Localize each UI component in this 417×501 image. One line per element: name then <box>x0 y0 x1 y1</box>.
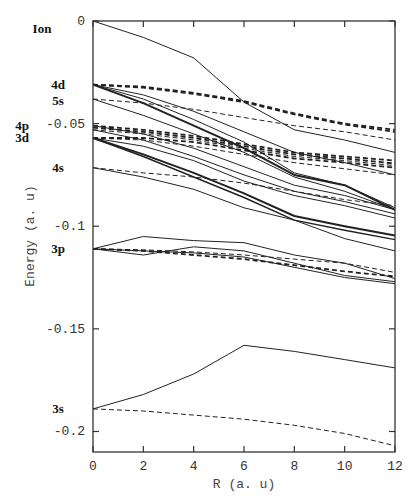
y-tick-label: -0.2 <box>54 424 85 439</box>
y-tick-label: -0.1 <box>54 219 85 234</box>
state-label-4d: 4d <box>51 77 66 92</box>
state-label-Ion: Ion <box>33 21 53 36</box>
state-label-3d: 3d <box>15 130 30 145</box>
series-line <box>93 249 395 273</box>
series-line <box>93 85 395 130</box>
series-line <box>93 168 395 251</box>
state-label-3s: 3s <box>52 401 64 416</box>
state-label-3p: 3p <box>51 241 65 256</box>
x-tick-label: 6 <box>240 459 248 474</box>
x-tick-label: 8 <box>290 459 298 474</box>
series-line <box>93 85 395 210</box>
x-tick-label: 0 <box>89 459 97 474</box>
x-tick-label: 10 <box>337 459 353 474</box>
series-line <box>93 130 395 166</box>
y-tick-label: 0 <box>77 14 85 29</box>
x-tick-label: 2 <box>139 459 147 474</box>
x-axis-title: R (a. u) <box>213 477 275 492</box>
y-tick-label: -0.15 <box>46 322 85 337</box>
series-line <box>93 138 395 218</box>
series-line <box>93 99 395 140</box>
series-line <box>93 249 395 277</box>
state-label-4s: 4s <box>52 160 64 175</box>
series-line <box>93 409 395 446</box>
series-line <box>93 85 395 132</box>
y-axis-title: Energy (a. u) <box>23 185 38 286</box>
plot-frame <box>93 21 395 452</box>
x-tick-label: 4 <box>190 459 198 474</box>
x-axis-ticks: 024681012 <box>89 21 403 474</box>
series-line <box>93 345 395 409</box>
y-tick-label: -0.05 <box>46 117 85 132</box>
plot-series <box>93 21 395 446</box>
energy-curves-chart: 024681012 0-0.05-0.1-0.15-0.2 Ion4d5s4p3… <box>0 0 417 501</box>
x-tick-label: 12 <box>387 459 403 474</box>
state-label-5s: 5s <box>52 93 64 108</box>
